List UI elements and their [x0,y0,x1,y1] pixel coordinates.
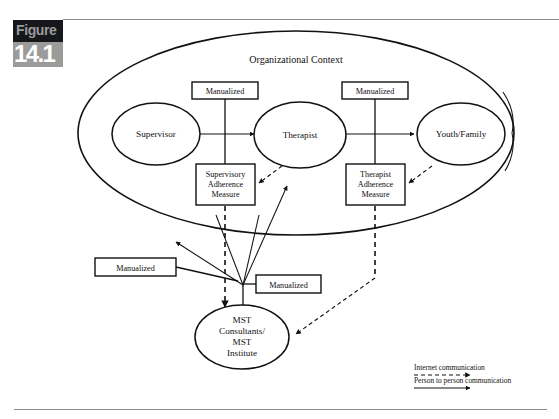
node-supervisor-label: Supervisor [136,129,176,139]
box-therapist-adherence-line2: Adherence [358,180,394,189]
box-supervisory-adherence-line2: Adherence [208,180,244,189]
box-therapist-adherence-line3: Measure [361,190,390,199]
node-therapist-label: Therapist [283,130,318,140]
bottom-divider-rule [14,409,547,410]
box-manualized-therapist-label: Manualized [356,87,395,96]
node-mst-line2: Consultants/ [219,326,265,336]
legend-person-label: Person to person communication [414,376,511,385]
node-youth-family-label: Youth/Family [436,129,487,139]
organizational-context-label: Organizational Context [249,54,343,65]
box-therapist-adherence-line1: Therapist [360,170,392,179]
box-manualized-supervisor-label: Manualized [206,87,245,96]
box-supervisory-adherence-line1: Supervisory [206,170,246,179]
edge-therapist-adherence-to-youth-family [409,166,432,183]
node-mst-line1: MST [233,315,252,325]
connector-manualized-left-to-junction [176,267,238,281]
node-mst-line4: Institute [227,348,257,358]
edge-supervisory-adherence-to-therapist [259,166,282,183]
box-supervisory-adherence-line3: Measure [211,190,240,199]
figure-page: Figure 14.1 Organizational Context Super… [0,0,559,419]
edge-mst-fan-left [216,215,243,285]
edge-mst-to-supervisor [176,242,243,285]
node-mst-line3: MST [233,337,252,347]
box-manualized-lower-label: Manualized [269,281,308,290]
legend-internet-label: Internet communication [414,363,485,372]
diagram-canvas: Organizational Context Supervisor Therap… [0,0,559,419]
box-manualized-left-label: Manualized [116,264,155,273]
